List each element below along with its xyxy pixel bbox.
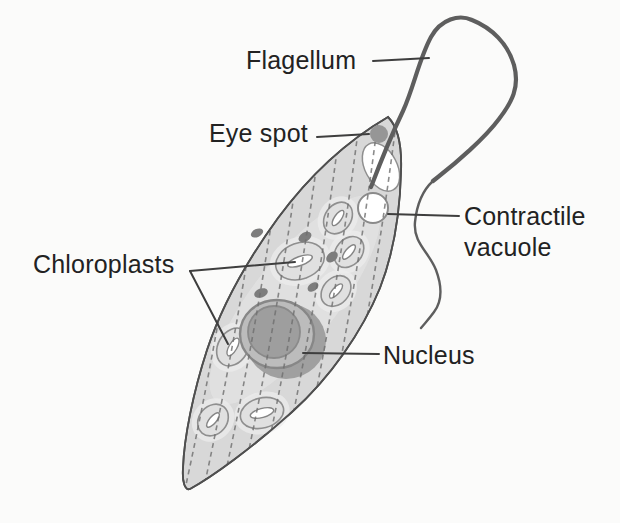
contractile-vacuole: [358, 193, 388, 223]
flagellum-label: Flagellum: [246, 45, 356, 76]
contractile-vacuole-label-line1: Contractile: [464, 201, 586, 232]
euglena-diagram: Flagellum Eye spot Contractile vacuole C…: [0, 0, 620, 523]
eye-spot: [370, 125, 388, 143]
pellicle-stripe: [107, 70, 181, 510]
chloroplasts-leader-line-lower: [190, 271, 228, 344]
eye-spot-label: Eye spot: [209, 118, 308, 149]
contractile-vacuole-label-line2: vacuole: [464, 232, 586, 263]
nucleus-label: Nucleus: [383, 340, 475, 371]
pellicle-stripe: [440, 70, 514, 510]
chloroplasts-label: Chloroplasts: [33, 249, 174, 280]
nucleus-leader-line: [303, 353, 379, 354]
granule: [249, 227, 264, 240]
flagellum-tail: [415, 181, 441, 328]
pellicle-stripe: [88, 70, 162, 510]
contractile-vacuole-label: Contractile vacuole: [464, 201, 586, 263]
